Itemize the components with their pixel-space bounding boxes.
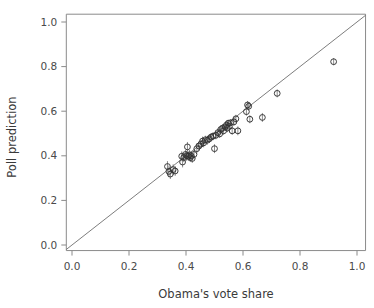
- x-tick-label: 1.0: [349, 260, 366, 272]
- x-tick-label: 0.8: [292, 260, 309, 272]
- y-tick-label: 0.2: [41, 194, 58, 206]
- y-axis-title: Poll prediction: [5, 96, 19, 177]
- y-tick-label: 0.8: [41, 60, 58, 72]
- scatter-plot: 0.00.20.40.60.81.0 0.00.20.40.60.81.0 Ob…: [0, 0, 374, 308]
- x-tick-label: 0.6: [235, 260, 252, 272]
- x-axis-title: Obama's vote share: [158, 287, 273, 301]
- y-tick-label: 0.4: [41, 149, 58, 161]
- x-tick-label: 0.4: [178, 260, 195, 272]
- x-tick-label: 0.2: [121, 260, 138, 272]
- y-tick-label: 0.0: [41, 239, 58, 251]
- chart-figure: 0.00.20.40.60.81.0 0.00.20.40.60.81.0 Ob…: [0, 0, 374, 308]
- x-tick-label: 0.0: [64, 260, 81, 272]
- y-tick-label: 1.0: [41, 16, 58, 28]
- y-tick-label: 0.6: [41, 105, 58, 117]
